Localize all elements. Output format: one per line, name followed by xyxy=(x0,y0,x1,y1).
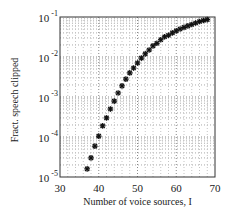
data-point-marker xyxy=(88,155,94,161)
data-series xyxy=(84,17,210,172)
y-tick-label: 10-4 xyxy=(28,129,58,144)
data-point-marker xyxy=(108,106,114,112)
y-tick-label: 10-1 xyxy=(28,9,58,24)
x-tick-label: 40 xyxy=(89,182,109,194)
data-point-marker xyxy=(115,90,121,96)
data-point-marker xyxy=(127,70,133,76)
data-point-marker xyxy=(100,123,106,129)
data-point-marker xyxy=(123,76,129,82)
x-tick-label: 70 xyxy=(205,182,225,194)
data-point-marker xyxy=(111,98,117,104)
x-tick-label: 30 xyxy=(50,182,70,194)
data-point-marker xyxy=(119,83,125,89)
grid-lines xyxy=(60,17,215,177)
data-point-marker xyxy=(84,166,90,172)
x-tick-label: 50 xyxy=(128,182,148,194)
x-tick-label: 60 xyxy=(166,182,186,194)
data-point-marker xyxy=(135,60,141,66)
y-axis-label: Fract. speech clipped xyxy=(4,40,24,160)
y-tick-label: 10-3 xyxy=(28,89,58,104)
data-point-marker xyxy=(131,65,137,71)
data-point-marker xyxy=(104,115,110,121)
data-point-marker xyxy=(96,133,102,139)
data-point-marker xyxy=(204,17,210,23)
data-point-marker xyxy=(158,37,164,43)
x-axis-label: Number of voice sources, I xyxy=(60,196,215,207)
y-tick-label: 10-2 xyxy=(28,49,58,64)
data-point-marker xyxy=(92,143,98,149)
